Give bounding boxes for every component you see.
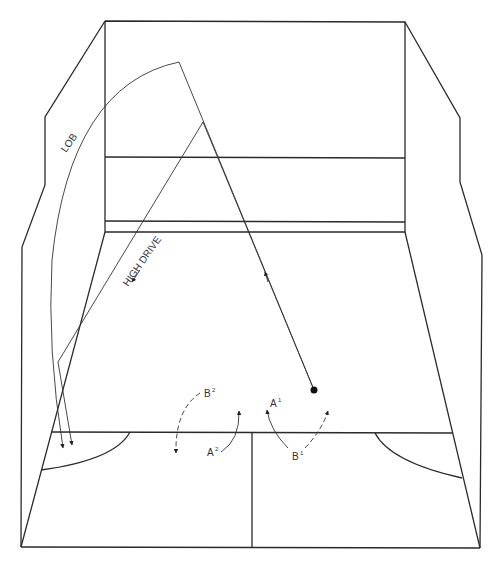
label-a2-sup: 2 xyxy=(215,446,219,452)
front-wall-tin-top xyxy=(105,221,405,222)
front-wall-service-line xyxy=(105,157,405,158)
lob-label: LOB xyxy=(59,131,80,154)
label-a1-sup: 1 xyxy=(278,397,282,403)
movement-a1-b1: A 1 B 1 xyxy=(267,397,328,462)
label-a2: A xyxy=(207,447,214,458)
movement-a2-b2: A 2 B 2 xyxy=(176,387,239,458)
back-wall-line xyxy=(21,547,480,548)
lob-shot-path xyxy=(51,62,314,448)
right-service-box-arc xyxy=(375,433,462,478)
left-service-box-arc xyxy=(41,432,130,470)
label-a1: A xyxy=(270,398,277,409)
front-wall xyxy=(105,21,405,232)
label-b2-sup: 2 xyxy=(212,387,216,393)
label-b2: B xyxy=(204,388,211,399)
right-side-wall xyxy=(405,22,482,548)
court-floor xyxy=(21,232,480,548)
high-drive-shot-path xyxy=(58,122,314,445)
squash-court-diagram: LOB HIGH DRIVE A 1 B 1 A 2 B 2 xyxy=(0,0,498,564)
label-b1-sup: 1 xyxy=(300,450,304,456)
left-side-wall xyxy=(21,21,105,547)
high-drive-label: HIGH DRIVE xyxy=(121,234,164,288)
ball-icon xyxy=(311,387,318,394)
label-b1: B xyxy=(292,451,299,462)
